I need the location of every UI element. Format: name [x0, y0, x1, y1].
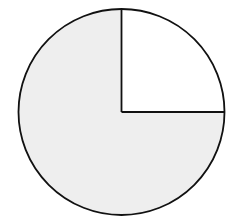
pie-chart [0, 0, 226, 217]
pie-slice-unshaded [122, 9, 225, 112]
